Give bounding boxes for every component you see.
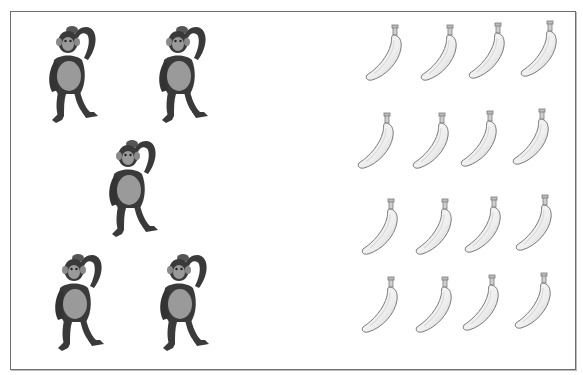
banana-icon	[514, 194, 556, 254]
banana-icon	[419, 24, 461, 84]
banana-icon	[414, 198, 456, 258]
chimpanzee-icon	[155, 248, 211, 352]
chimpanzee-icon	[104, 134, 160, 238]
banana-icon	[360, 198, 402, 258]
banana-icon	[364, 24, 406, 84]
banana-icon	[459, 110, 501, 170]
chimpanzee-icon	[50, 248, 106, 352]
banana-icon	[360, 276, 402, 336]
banana-icon	[519, 20, 561, 80]
banana-icon	[461, 274, 503, 334]
banana-icon	[463, 196, 505, 256]
chimpanzee-icon	[44, 20, 100, 124]
banana-icon	[411, 112, 453, 172]
banana-icon	[356, 112, 398, 172]
banana-icon	[513, 272, 555, 332]
banana-icon	[467, 22, 509, 82]
banana-icon	[511, 108, 553, 168]
chimpanzee-icon	[154, 20, 210, 124]
banana-icon	[414, 276, 456, 336]
